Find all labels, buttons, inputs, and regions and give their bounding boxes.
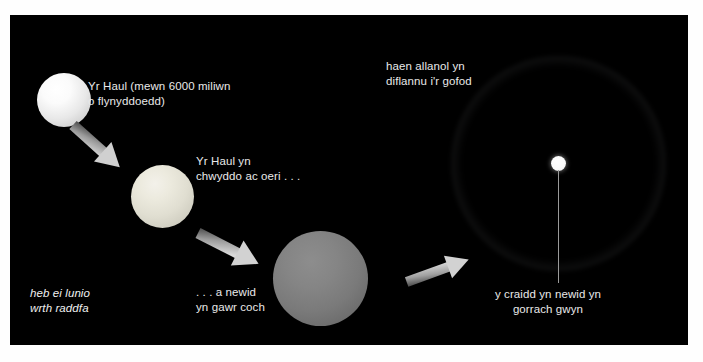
arrow-giant-to-nebula-icon (403, 243, 483, 298)
label-red-giant: . . . a newid yn gawr coch (196, 285, 265, 315)
star-red-giant (273, 231, 368, 326)
star-swelling-sun (131, 165, 194, 228)
arrow-swelling-to-giant-icon (192, 221, 277, 281)
sky-panel: Yr Haul (mewn 6000 miliwn o flynyddoedd)… (10, 15, 688, 345)
star-white-dwarf (551, 156, 566, 171)
label-white-dwarf: y craidd yn newid yn gorrach gwyn (473, 287, 623, 317)
stellar-evolution-figure: Yr Haul (mewn 6000 miliwn o flynyddoedd)… (0, 0, 703, 362)
label-sun: Yr Haul (mewn 6000 miliwn o flynyddoedd) (88, 79, 230, 109)
label-outer-layer: haen allanol yn diflannu i'r gofod (386, 59, 472, 89)
arrow-sun-to-swelling-icon (65, 115, 140, 185)
white-dwarf-leader-line (558, 170, 559, 283)
label-not-to-scale: heb ei lunio wrth raddfa (30, 286, 90, 316)
label-swelling-sun: Yr Haul yn chwyddo ac oeri . . . (196, 154, 300, 184)
